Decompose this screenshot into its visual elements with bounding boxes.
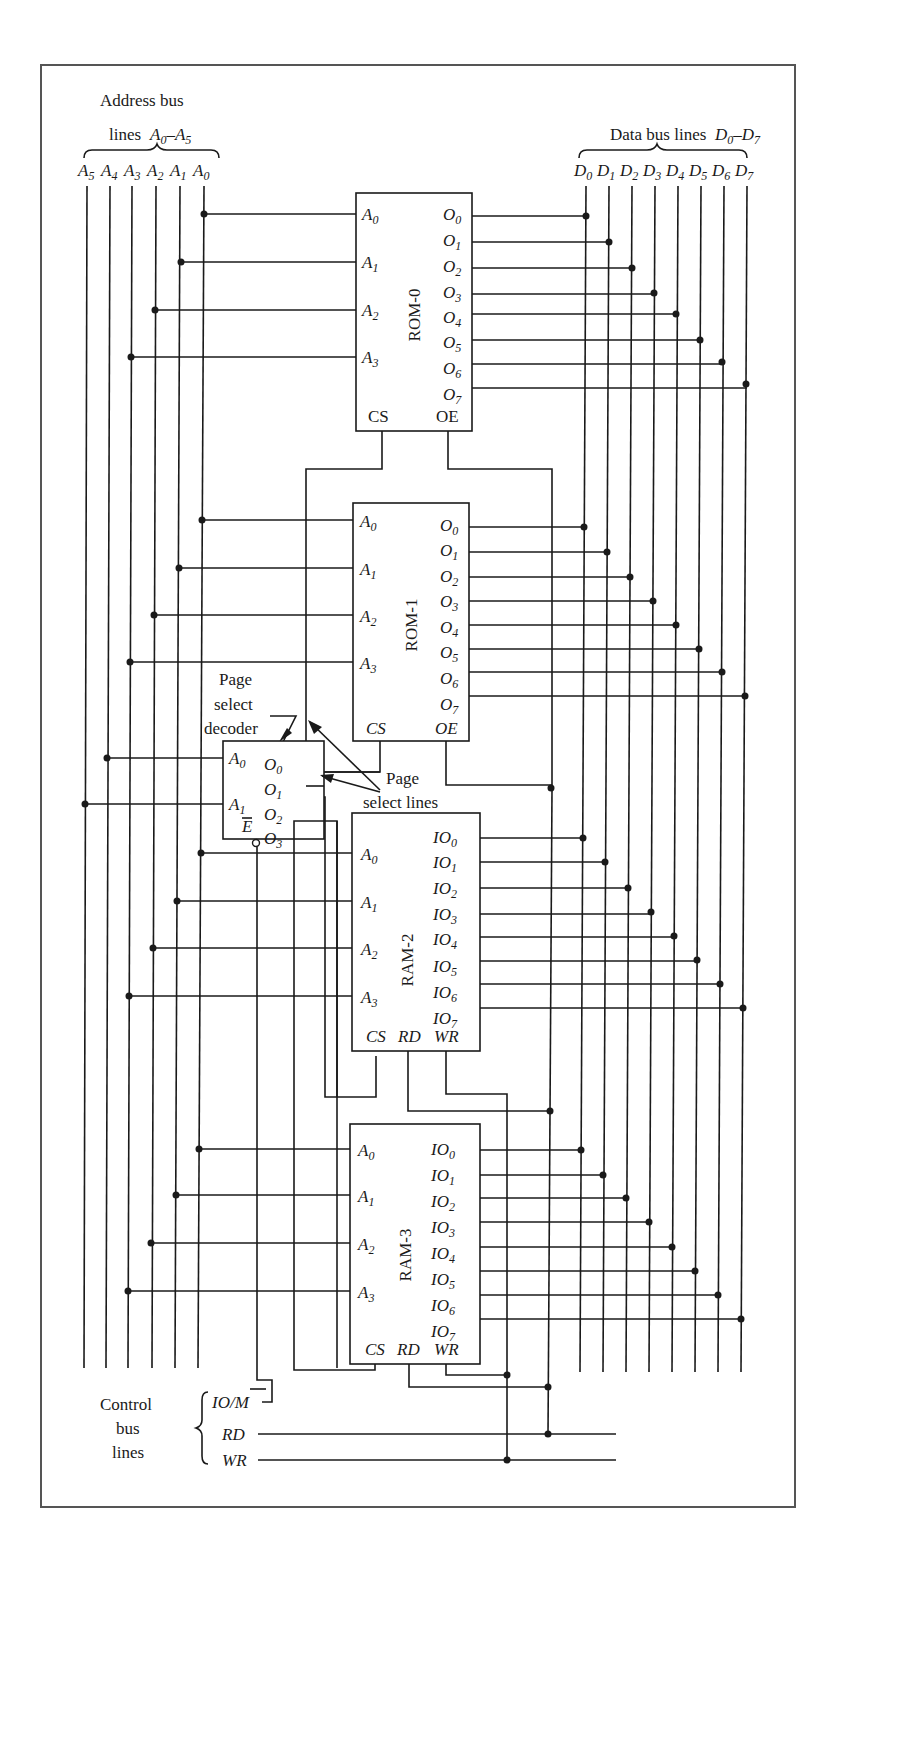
svg-text:OE: OE	[436, 407, 459, 426]
svg-text:A2: A2	[146, 161, 163, 183]
svg-text:A0: A0	[192, 161, 209, 183]
enable-wire	[257, 847, 272, 1402]
svg-text:A3: A3	[123, 161, 140, 183]
address-line-a5	[84, 186, 87, 1368]
svg-text:select lines: select lines	[363, 793, 438, 812]
chip-ram-2: A0 A1 A2 A3 RAM-2 IO0 IO1 IO2 IO3 IO4 IO…	[126, 813, 747, 1051]
data-line-d7	[741, 186, 747, 1372]
control-bus-brace	[196, 1392, 208, 1464]
data-bus-header: Data bus lines D0–D7	[579, 125, 761, 158]
rom1-oe-wire	[446, 741, 552, 785]
svg-text:D5: D5	[688, 161, 707, 183]
chip-name: ROM-0	[405, 289, 424, 342]
address-bus-header: Address bus lines A0–A5	[84, 91, 219, 158]
svg-text:D6: D6	[711, 161, 730, 183]
page-select-decoder: Page select decoder A0 A1 O0 O1 O2 O3 E	[82, 670, 381, 851]
address-bus-range: A0–A5	[149, 125, 191, 147]
svg-text:D2: D2	[619, 161, 638, 183]
data-bus-title: Data bus lines	[610, 125, 706, 144]
svg-text:A5: A5	[77, 161, 94, 183]
svg-text:RD: RD	[397, 1027, 421, 1046]
svg-text:D7: D7	[734, 161, 754, 183]
address-line-a0	[198, 186, 204, 1368]
svg-text:decoder: decoder	[204, 719, 258, 738]
address-line-a1	[175, 186, 180, 1368]
svg-text:Control: Control	[100, 1395, 152, 1414]
chip-rom-0: A0 A1 A2 A3 ROM-0 O0 O1 O2 O3 O4 O5 O6 O…	[128, 193, 750, 431]
chip-ram-3: A0 A1 A2 A3 RAM-3 IO0 IO1 IO2 IO3 IO4 IO…	[125, 1124, 745, 1364]
control-line-rd-label: RD	[221, 1425, 245, 1444]
svg-text:WR: WR	[434, 1027, 459, 1046]
chip-name: RAM-2	[398, 934, 417, 987]
svg-text:A1: A1	[169, 161, 186, 183]
control-line-io-m-label: IO/M	[211, 1393, 250, 1412]
data-bus-range: D0–D7	[714, 125, 761, 147]
svg-text:D3: D3	[642, 161, 661, 183]
svg-text:select: select	[214, 695, 253, 714]
address-line-a4	[106, 186, 110, 1368]
svg-text:Page: Page	[219, 670, 252, 689]
svg-text:D1: D1	[596, 161, 615, 183]
svg-text:OE: OE	[435, 719, 458, 738]
address-bus-title: Address bus	[100, 91, 184, 110]
svg-text:WR: WR	[434, 1340, 459, 1359]
svg-text:RD: RD	[396, 1340, 420, 1359]
rom1-cs-wire	[322, 741, 380, 772]
svg-text:CS: CS	[366, 1027, 386, 1046]
address-line-a2	[152, 186, 156, 1368]
address-bus-lines	[84, 186, 204, 1368]
ram2-rd-wire	[408, 1051, 551, 1111]
address-line-a3	[128, 186, 132, 1368]
ram3-wr-wire	[446, 1364, 507, 1375]
svg-text:bus: bus	[116, 1419, 140, 1438]
svg-text:CS: CS	[365, 1340, 385, 1359]
enable-bubble	[253, 840, 260, 847]
control-line-wr-label: WR	[222, 1451, 247, 1470]
svg-text:A4: A4	[100, 161, 117, 183]
enable-label: E	[241, 817, 253, 836]
control-bus: Control bus lines IO/M RD WR	[100, 1389, 616, 1470]
svg-text:D4: D4	[665, 161, 684, 183]
svg-text:Page: Page	[386, 769, 419, 788]
data-line-labels: D0 D1 D2 D3 D4 D5 D6 D7	[573, 161, 754, 183]
address-line-labels: A5 A4 A3 A2 A1 A0	[77, 161, 209, 183]
svg-text:D0: D0	[573, 161, 592, 183]
svg-text:CS: CS	[368, 407, 389, 426]
address-bus-subtitle: lines	[109, 125, 141, 144]
chip-name: RAM-3	[396, 1229, 415, 1282]
chip-name: ROM-1	[402, 599, 421, 652]
svg-text:lines: lines	[112, 1443, 144, 1462]
address-bus-brace	[84, 144, 219, 158]
memory-system-diagram: Address bus lines A0–A5 Data bus lines D…	[0, 0, 907, 1748]
data-bus-brace	[579, 144, 747, 158]
svg-text:CS: CS	[366, 719, 386, 738]
